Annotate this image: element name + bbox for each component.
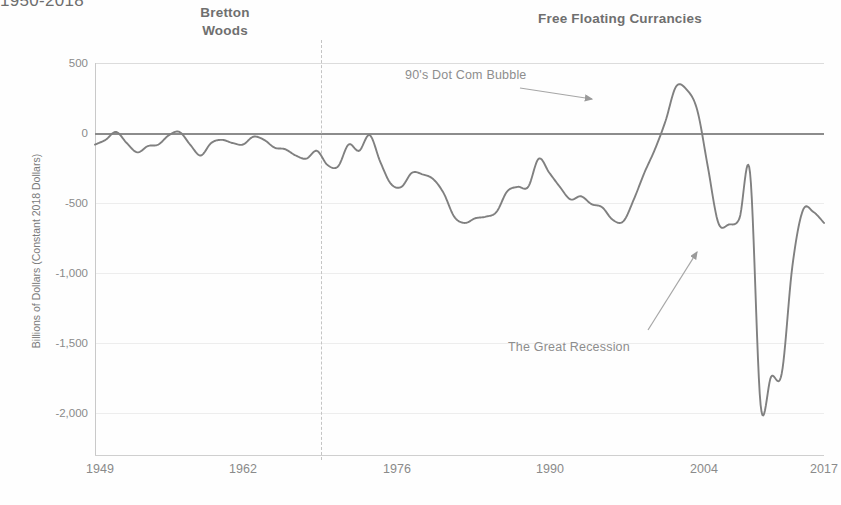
era-label-bretton-woods-line1: Bretton bbox=[165, 4, 285, 22]
gridline bbox=[95, 273, 824, 274]
x-tick-label: 2004 bbox=[690, 462, 718, 476]
y-tick-label: -1,500 bbox=[32, 337, 88, 349]
x-tick-label: 1976 bbox=[383, 462, 411, 476]
chart-page: 1950-2018 Bretton Woods Free Floating Cu… bbox=[0, 0, 841, 505]
plot-top-border bbox=[95, 63, 824, 64]
y-tick-label: -1,000 bbox=[32, 267, 88, 279]
x-tick-label: 2017 bbox=[810, 462, 838, 476]
era-divider-line bbox=[321, 40, 322, 460]
y-axis-line bbox=[95, 63, 96, 455]
annotation-arrow-dotcom bbox=[520, 88, 592, 99]
annotation-great-recession: The Great Recession bbox=[508, 340, 630, 354]
zero-reference-line bbox=[95, 133, 824, 135]
gridline bbox=[95, 203, 824, 204]
x-tick-label: 1949 bbox=[86, 462, 114, 476]
era-label-free-floating: Free Floating Currancies bbox=[470, 10, 770, 28]
y-tick-label: 500 bbox=[32, 57, 88, 69]
x-axis-line bbox=[95, 455, 824, 456]
x-tick-label: 1962 bbox=[229, 462, 257, 476]
x-tick-label: 1990 bbox=[536, 462, 564, 476]
era-label-bretton-woods-line2: Woods bbox=[165, 22, 285, 40]
y-axis-tick-labels: 500 0 -500 -1,000 -1,500 -2,000 bbox=[30, 0, 88, 505]
era-label-bretton-woods: Bretton Woods bbox=[165, 4, 285, 40]
annotation-dotcom-bubble: 90's Dot Com Bubble bbox=[405, 68, 527, 82]
annotation-arrow-recession bbox=[648, 252, 697, 330]
gridline bbox=[95, 413, 824, 414]
y-tick-label: 0 bbox=[32, 127, 88, 139]
y-tick-label: -500 bbox=[32, 197, 88, 209]
gridline bbox=[95, 343, 824, 344]
y-tick-label: -2,000 bbox=[32, 407, 88, 419]
